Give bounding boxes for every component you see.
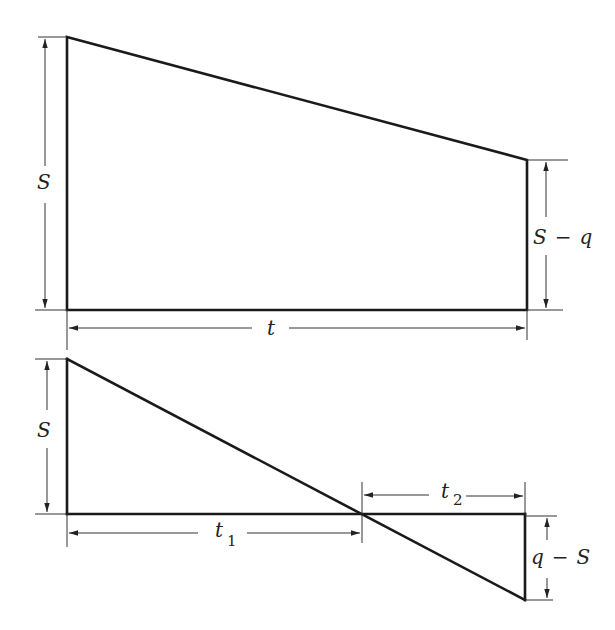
label-t2: t 2 (441, 479, 463, 509)
bottom-panel: S t 1 t 2 q − S (35, 359, 590, 600)
label-q-minus-S: q − S (531, 545, 590, 569)
label-S-minus-q: S − q (533, 225, 592, 249)
top-panel: S S − q t (35, 37, 592, 350)
inventory-line (67, 359, 525, 600)
inventory-diagram: S S − q t S (0, 0, 615, 630)
label-S-bottom: S (37, 418, 51, 442)
top-trapezoid (67, 37, 527, 310)
label-S-top: S (37, 170, 51, 194)
label-t1: t 1 (215, 518, 237, 550)
label-t: t (267, 316, 276, 340)
